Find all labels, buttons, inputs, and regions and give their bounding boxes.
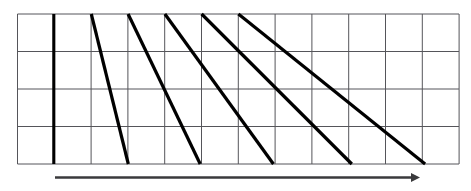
figure-root [0,0,471,191]
sawtooth-diagram-svg [0,0,471,191]
canvas-background [0,0,471,191]
